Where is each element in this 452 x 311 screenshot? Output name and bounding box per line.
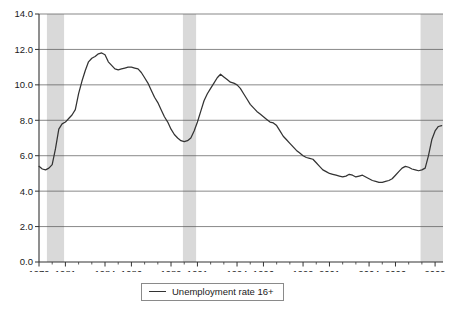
- x-axis-tick-label: 1979: [28, 268, 49, 272]
- legend-label: Unemployment rate 16+: [172, 286, 274, 297]
- chart-legend: Unemployment rate 16+: [141, 283, 284, 301]
- y-axis-tick-label: 8.0: [20, 115, 33, 126]
- x-axis-tick-label: 1999: [292, 268, 313, 272]
- x-axis-tick-label: 2009: [425, 268, 446, 272]
- legend-line-swatch: [149, 291, 166, 292]
- y-axis-tick-label: 10.0: [15, 79, 34, 90]
- y-axis-tick-label: 2.0: [20, 221, 33, 232]
- y-axis-tick-label: 12.0: [15, 44, 34, 55]
- plot-area-wrapper: 0.02.04.06.08.010.012.014.01979198119841…: [0, 0, 452, 272]
- y-axis-tick-label: 0.0: [20, 256, 33, 267]
- y-axis-tick-label: 14.0: [15, 8, 34, 19]
- chart-svg: 0.02.04.06.08.010.012.014.01979198119841…: [0, 0, 452, 272]
- x-axis-tick-label: 2006: [385, 268, 406, 272]
- unemployment-rate-chart: 0.02.04.06.08.010.012.014.01979198119841…: [0, 0, 452, 311]
- x-axis-tick-label: 2001: [319, 268, 340, 272]
- y-axis-tick-label: 4.0: [20, 186, 33, 197]
- y-axis-tick-label: 6.0: [20, 150, 33, 161]
- x-axis-tick-label: 1984: [94, 268, 115, 272]
- data-series-line: [39, 53, 442, 182]
- recession-shading-band: [183, 14, 196, 262]
- x-axis-tick-label: 1986: [121, 268, 142, 272]
- x-axis-tick-label: 2004: [358, 268, 379, 272]
- x-axis-tick-label: 1981: [55, 268, 76, 272]
- x-axis-tick-label: 1996: [253, 268, 274, 272]
- recession-shading-band: [47, 14, 64, 262]
- x-axis-tick-label: 1989: [160, 268, 181, 272]
- x-axis-tick-label: 1991: [187, 268, 208, 272]
- x-axis-tick-label: 1994: [226, 268, 247, 272]
